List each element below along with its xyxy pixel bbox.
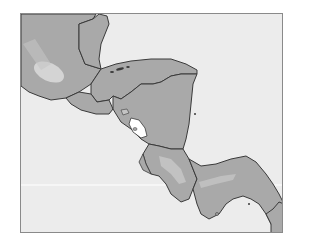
coast-dot-1 (194, 113, 196, 115)
panama-island (216, 213, 219, 216)
bay-island-1 (110, 71, 114, 73)
bay-island-3 (126, 66, 130, 68)
lake-island (133, 128, 137, 131)
map-frame (20, 13, 283, 233)
central-america-map (21, 14, 283, 233)
panama-island-2 (248, 203, 250, 205)
